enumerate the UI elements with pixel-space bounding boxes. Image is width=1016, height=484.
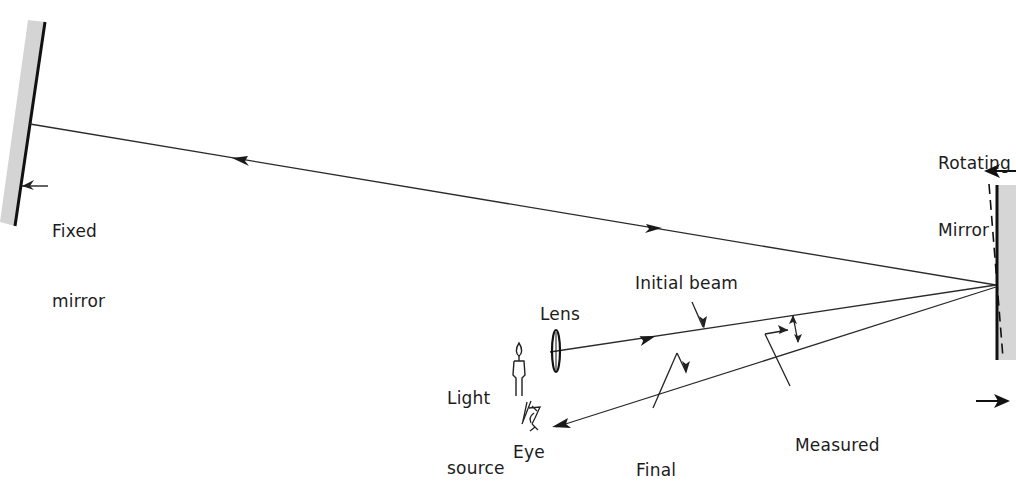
- final-reflected-beam-label: Final reflected beam: [636, 415, 713, 484]
- initial-beam: [550, 285, 996, 352]
- long-beam: [30, 124, 996, 285]
- label-line: Measured: [795, 434, 881, 456]
- eye-icon: [522, 401, 540, 431]
- final-reflected-beam: [552, 287, 996, 428]
- initial-beam-label: Initial beam: [635, 272, 738, 294]
- rotation-arrow-bottom: [976, 394, 1010, 408]
- measured-angle-label: Measured angle of deflection: [795, 390, 881, 484]
- label-line: Rotating: [938, 152, 1011, 174]
- lens-label: Lens: [540, 303, 580, 325]
- label-line: Fixed: [52, 220, 105, 242]
- fixed-mirror: [0, 20, 45, 226]
- initial-beam-pointer: [692, 302, 707, 329]
- label-line: Light: [447, 387, 505, 409]
- rotating-mirror-label: Rotating Mirror: [938, 108, 1011, 263]
- label-line: mirror: [52, 290, 105, 312]
- label-line: Mirror: [938, 219, 1011, 241]
- light-source-label: Light source: [447, 343, 505, 484]
- label-line: Final: [636, 459, 713, 481]
- fixed-mirror-pointer: [22, 180, 48, 190]
- final-reflected-beam-pointer: [653, 353, 690, 408]
- candle-icon: [513, 343, 525, 396]
- fixed-mirror-label: Fixed mirror: [52, 176, 105, 334]
- label-line: source: [447, 457, 505, 479]
- eye-label: Eye: [513, 441, 545, 463]
